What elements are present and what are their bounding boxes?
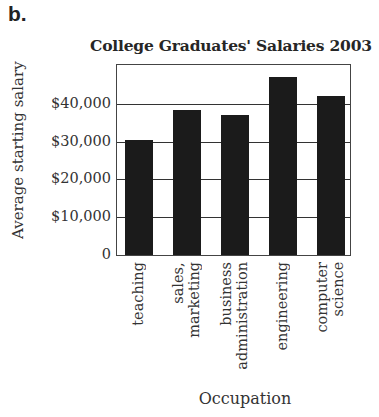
y-axis-label: Average starting salary (9, 79, 27, 239)
y-tick-label: $20,000 (51, 170, 111, 186)
x-axis-label: Occupation (180, 389, 310, 408)
bar-computer-science (317, 96, 345, 255)
bar-business-administration (221, 115, 249, 255)
x-tick-label: engineering (274, 262, 290, 351)
x-tick-label: teaching (130, 262, 146, 326)
chart-title: College Graduates' Salaries 2003 (90, 36, 379, 55)
y-tick-label: 0 (102, 246, 111, 262)
y-tick-label: $10,000 (51, 208, 111, 224)
bar-engineering (269, 77, 297, 255)
bar-sales-marketing (173, 110, 201, 255)
y-tick-label: $40,000 (51, 95, 111, 111)
gridline (117, 104, 350, 105)
x-tick-label: business administration (218, 262, 250, 370)
plot-area (116, 64, 351, 256)
x-tick-label: sales, marketing (170, 262, 202, 338)
figure-label: b. (8, 2, 27, 26)
bar-teaching (125, 140, 153, 255)
y-tick-label: $30,000 (51, 133, 111, 149)
x-tick-label: computer science (314, 262, 346, 333)
